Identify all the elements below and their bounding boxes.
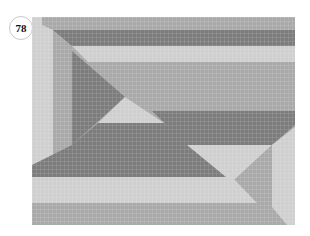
grid-overlay	[32, 17, 295, 225]
pattern-number: 78	[16, 22, 27, 34]
chart-pattern-grid	[32, 17, 295, 225]
pattern-number-badge: 78	[9, 16, 33, 40]
